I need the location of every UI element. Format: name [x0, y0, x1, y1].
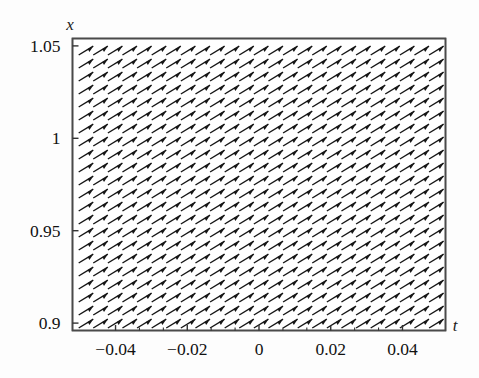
x-tick-label: −0.04: [95, 339, 136, 359]
x-tick-label: 0.02: [315, 339, 346, 359]
y-tick-label: 0.95: [30, 221, 61, 241]
y-tick-label: 0.9: [39, 313, 61, 333]
y-tick-label: 1: [52, 128, 61, 148]
x-tick-label: −0.02: [167, 339, 208, 359]
direction-field-figure: −0.04−0.0200.020.040.90.9511.05xt: [0, 0, 479, 378]
x-tick-label: 0.04: [387, 339, 418, 359]
y-axis-label: x: [65, 15, 74, 34]
x-tick-label: 0: [255, 339, 264, 359]
plot-canvas: −0.04−0.0200.020.040.90.9511.05xt: [0, 0, 479, 378]
y-tick-label: 1.05: [30, 36, 61, 56]
